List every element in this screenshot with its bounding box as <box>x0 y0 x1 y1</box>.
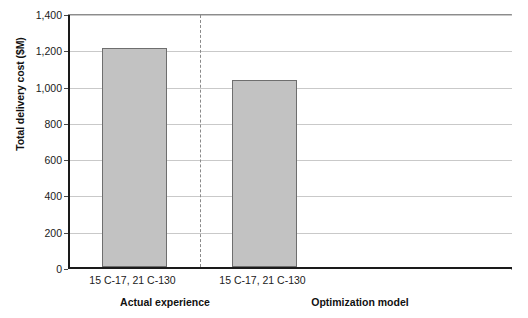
bar-2 <box>232 80 297 267</box>
y-axis-tick-mark <box>64 269 68 270</box>
group-divider-dashed-line <box>200 15 201 267</box>
bar-chart: Total delivery cost ($M) 02004006008001,… <box>0 0 528 318</box>
x-axis-category-label: 15 C-17, 21 C-130 <box>89 274 175 286</box>
x-axis-group-label-2: Optimization model <box>311 296 408 308</box>
y-axis-tick-mark <box>64 233 68 234</box>
y-axis-tick-label: 1,400 <box>36 9 62 21</box>
y-axis-tick-mark <box>64 160 68 161</box>
y-axis-tick-label: 0 <box>56 263 62 275</box>
y-axis-tick-label: 400 <box>44 190 62 202</box>
y-axis-tick-label: 800 <box>44 118 62 130</box>
y-axis-title: Total delivery cost ($M) <box>14 19 26 169</box>
plot-area <box>68 15 512 269</box>
y-axis-tick-label: 200 <box>44 227 62 239</box>
y-axis-tick-mark <box>64 196 68 197</box>
y-axis-tick-label: 600 <box>44 154 62 166</box>
y-axis-tick-mark <box>64 51 68 52</box>
y-axis-tick-mark <box>64 15 68 16</box>
gridline <box>70 15 512 16</box>
y-axis-tick-label: 1,000 <box>36 82 62 94</box>
y-axis-tick-label: 1,200 <box>36 45 62 57</box>
y-axis-tick-mark <box>64 124 68 125</box>
x-axis-group-label-1: Actual experience <box>120 296 210 308</box>
x-axis-category-label: 15 C-17, 21 C-130 <box>219 274 305 286</box>
y-axis-tick-mark <box>64 88 68 89</box>
bar-1 <box>102 48 167 267</box>
